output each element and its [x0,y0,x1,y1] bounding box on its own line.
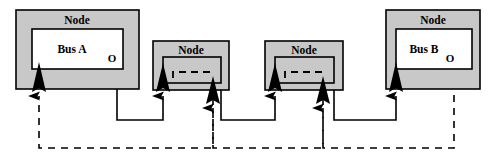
diagram-canvas: Node Bus A O Node Node Node Bus B O [0,0,494,160]
node-4-output-port-label: O [446,52,455,64]
node-4-label: Node [420,14,446,26]
node-1-inner-label: Bus A [57,43,87,55]
node-2-label: Node [178,44,204,56]
node-4[interactable]: Node Bus B O [386,10,480,89]
node-3-label: Node [291,44,317,56]
block-diagram: Node Bus A O Node Node Node Bus B O [0,0,494,160]
node-1-output-port-label: O [108,52,117,64]
node-3-inner-box [275,57,334,83]
node-1[interactable]: Node Bus A O [16,10,139,89]
node-1-label: Node [64,14,90,26]
node-4-inner-label: Bus B [409,43,438,55]
